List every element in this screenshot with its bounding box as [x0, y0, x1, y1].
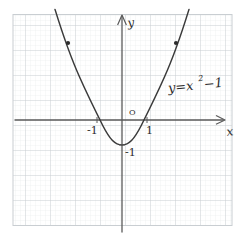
equation-base: y=x [166, 78, 195, 96]
x-tick-label-neg1: -1 [87, 124, 98, 137]
point-marker-right [174, 41, 178, 45]
y-tick-label-neg1: -1 [125, 146, 136, 159]
x-axis-label: x [225, 124, 234, 139]
point-marker-left [66, 41, 70, 45]
graph-figure: y x O -1 1 -1 y=x 2 −1 [0, 0, 249, 244]
origin-label: O [129, 108, 136, 117]
x-tick-label-pos1: 1 [146, 124, 153, 137]
equation-tail: −1 [203, 75, 224, 92]
graph-canvas: y x O -1 1 -1 y=x 2 −1 [0, 0, 249, 244]
